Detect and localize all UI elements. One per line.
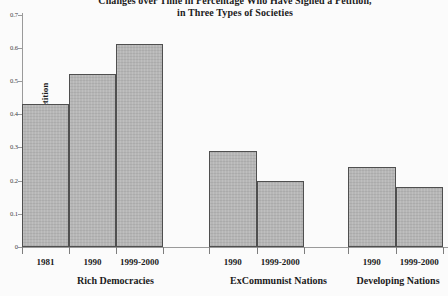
group-label: Rich Democracies [46, 275, 186, 287]
category-separator [348, 247, 349, 254]
chart-title-line1: Changes over Time in Percentage Who Have… [22, 0, 448, 7]
bar [209, 151, 257, 247]
petition-bar-chart-page: { "title": { "line1": "Changes over Time… [0, 0, 448, 296]
bar-year-label: 1999-2000 [245, 257, 315, 268]
y-axis-tick-label: 0.3 [0, 143, 18, 151]
bar [116, 44, 163, 247]
category-separator [116, 247, 117, 254]
y-axis-tick-mark [18, 48, 22, 49]
bar [257, 181, 305, 247]
y-axis-tick-label: 0.2 [0, 177, 18, 185]
y-axis-tick-mark [18, 81, 22, 82]
category-separator [257, 247, 258, 254]
bar [348, 167, 396, 247]
plot-area: % who have signed a petition 0.70.60.50.… [22, 13, 448, 296]
category-separator [163, 247, 164, 254]
category-separator [22, 247, 23, 254]
group-label: Developing Nations [328, 275, 448, 287]
y-axis-tick-label: 0.4 [0, 110, 18, 118]
bar [396, 187, 444, 247]
bar [22, 104, 69, 247]
bar-year-label: 1999-2000 [105, 257, 175, 268]
category-separator [69, 247, 70, 254]
bar-year-label: 1999-2000 [384, 257, 448, 268]
y-axis-tick-label: 0.1 [0, 210, 18, 218]
y-axis-tick-mark [18, 15, 22, 16]
y-axis-tick-label: 0.7 [0, 11, 18, 19]
category-separator [209, 247, 210, 254]
category-separator [443, 247, 444, 254]
category-separator [304, 247, 305, 254]
category-separator [396, 247, 397, 254]
y-axis-tick-label: 0.6 [0, 44, 18, 52]
bar [69, 74, 116, 247]
y-axis-tick-label: 0 [0, 243, 18, 251]
y-axis-tick-label: 0.5 [0, 77, 18, 85]
